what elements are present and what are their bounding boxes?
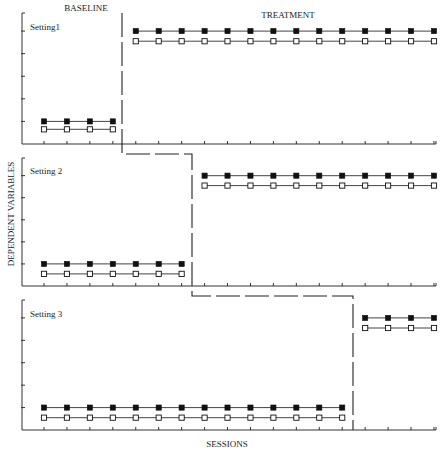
open-square-marker — [408, 325, 413, 330]
open-square-marker — [156, 271, 161, 276]
filled-square-marker — [87, 405, 92, 410]
filled-square-marker — [156, 261, 161, 266]
filled-square-marker — [340, 405, 345, 410]
open-square-marker — [133, 271, 138, 276]
open-square-marker — [87, 127, 92, 132]
filled-square-marker — [156, 405, 161, 410]
baseline-phase-label: BASELINE — [64, 3, 108, 13]
open-square-marker — [179, 415, 184, 420]
filled-square-marker — [179, 28, 184, 33]
filled-square-marker — [41, 119, 46, 124]
open-square-marker — [225, 39, 230, 44]
filled-square-marker — [408, 28, 413, 33]
filled-square-marker — [41, 261, 46, 266]
open-square-marker — [271, 415, 276, 420]
filled-square-marker — [248, 173, 253, 178]
filled-square-marker — [64, 261, 69, 266]
filled-square-marker — [317, 405, 322, 410]
filled-square-marker — [225, 173, 230, 178]
open-square-marker — [110, 127, 115, 132]
filled-square-marker — [133, 261, 138, 266]
filled-square-marker — [202, 28, 207, 33]
filled-square-marker — [294, 173, 299, 178]
open-square-marker — [64, 415, 69, 420]
open-square-marker — [133, 39, 138, 44]
filled-square-marker — [110, 261, 115, 266]
open-square-marker — [110, 415, 115, 420]
open-square-marker — [340, 39, 345, 44]
filled-square-marker — [64, 405, 69, 410]
open-square-marker — [202, 183, 207, 188]
filled-square-marker — [271, 173, 276, 178]
filled-square-marker — [340, 28, 345, 33]
open-square-marker — [179, 271, 184, 276]
filled-square-marker — [363, 315, 368, 320]
filled-square-marker — [386, 28, 391, 33]
filled-square-marker — [408, 315, 413, 320]
setting-label: Setting1 — [30, 22, 60, 32]
panel-2: Setting 2 — [21, 158, 437, 286]
filled-square-marker — [133, 405, 138, 410]
open-square-marker — [248, 183, 253, 188]
open-square-marker — [271, 39, 276, 44]
open-square-marker — [363, 325, 368, 330]
filled-square-marker — [225, 28, 230, 33]
panels: Setting1Setting 2Setting 3 — [21, 13, 437, 430]
open-square-marker — [156, 39, 161, 44]
filled-square-marker — [431, 173, 436, 178]
treatment-phase-label: TREATMENT — [261, 10, 315, 20]
open-square-marker — [431, 39, 436, 44]
filled-square-marker — [271, 28, 276, 33]
filled-square-marker — [363, 28, 368, 33]
filled-square-marker — [87, 119, 92, 124]
filled-square-marker — [110, 119, 115, 124]
open-square-marker — [386, 325, 391, 330]
open-square-marker — [408, 183, 413, 188]
filled-square-marker — [317, 173, 322, 178]
filled-square-marker — [202, 405, 207, 410]
filled-square-marker — [179, 405, 184, 410]
open-square-marker — [363, 183, 368, 188]
open-square-marker — [64, 127, 69, 132]
open-square-marker — [225, 415, 230, 420]
open-square-marker — [156, 415, 161, 420]
filled-square-marker — [386, 315, 391, 320]
filled-square-marker — [87, 261, 92, 266]
open-square-marker — [110, 271, 115, 276]
filled-square-marker — [179, 261, 184, 266]
filled-square-marker — [156, 28, 161, 33]
filled-square-marker — [363, 173, 368, 178]
open-square-marker — [431, 325, 436, 330]
filled-square-marker — [41, 405, 46, 410]
open-square-marker — [179, 39, 184, 44]
filled-square-marker — [431, 315, 436, 320]
filled-square-marker — [271, 405, 276, 410]
open-square-marker — [202, 39, 207, 44]
x-axis-label: SESSIONS — [206, 439, 248, 449]
open-square-marker — [41, 271, 46, 276]
open-square-marker — [41, 415, 46, 420]
open-square-marker — [431, 183, 436, 188]
phase-change-line — [122, 13, 353, 430]
open-square-marker — [340, 415, 345, 420]
open-square-marker — [202, 415, 207, 420]
open-square-marker — [225, 183, 230, 188]
open-square-marker — [133, 415, 138, 420]
open-square-marker — [294, 415, 299, 420]
filled-square-marker — [431, 28, 436, 33]
filled-square-marker — [408, 173, 413, 178]
open-square-marker — [340, 183, 345, 188]
phase-headers: BASELINE TREATMENT — [64, 3, 315, 20]
open-square-marker — [87, 415, 92, 420]
filled-square-marker — [202, 173, 207, 178]
setting-label: Setting 3 — [30, 309, 63, 319]
panel-1: Setting1 — [21, 13, 437, 144]
filled-square-marker — [386, 173, 391, 178]
filled-square-marker — [225, 405, 230, 410]
open-square-marker — [248, 415, 253, 420]
filled-square-marker — [248, 28, 253, 33]
open-square-marker — [271, 183, 276, 188]
filled-square-marker — [294, 405, 299, 410]
filled-square-marker — [294, 28, 299, 33]
open-square-marker — [386, 183, 391, 188]
